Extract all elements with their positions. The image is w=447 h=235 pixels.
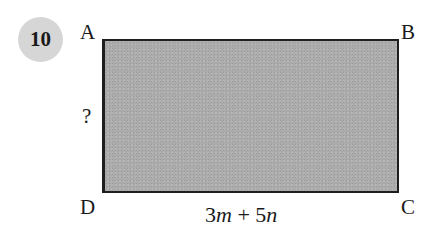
vertex-label-c: C bbox=[401, 197, 415, 218]
plus-operator: + bbox=[232, 202, 255, 227]
question-number: 10 bbox=[30, 27, 51, 52]
variable-m: m bbox=[216, 202, 232, 227]
vertex-label-b: B bbox=[401, 22, 415, 43]
bottom-side-expression: 3m + 5n bbox=[205, 202, 277, 228]
variable-n: n bbox=[266, 202, 277, 227]
coefficient-2: 5 bbox=[255, 202, 266, 227]
vertex-label-a: A bbox=[80, 22, 95, 43]
coefficient-1: 3 bbox=[205, 202, 216, 227]
vertex-label-d: D bbox=[80, 197, 95, 218]
unknown-side-label: ? bbox=[82, 106, 91, 127]
question-number-badge: 10 bbox=[18, 17, 63, 62]
rectangle-abcd bbox=[102, 39, 399, 193]
